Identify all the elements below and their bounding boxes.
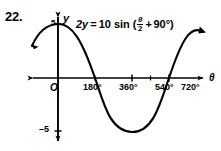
equation-plus: + [145, 18, 151, 30]
math-figure: 22. [0, 0, 221, 151]
fraction-denominator: 2 [137, 25, 143, 33]
y-tick-label-5: 5 [51, 19, 55, 27]
y-tick-label-minus-5: –5 [39, 125, 49, 134]
equation-equals: = [90, 18, 96, 30]
equation-label: 2y=10sin(θ2+90°) [76, 16, 174, 33]
origin-label: O [50, 83, 58, 93]
x-tick-label-720: 720° [181, 83, 200, 92]
equation-open-paren: ( [133, 18, 137, 30]
equation-lhs: 2y [76, 18, 88, 30]
x-tick-label-360: 360° [119, 83, 138, 92]
curve-arrow-right [198, 26, 208, 35]
y-axis [55, 17, 62, 141]
equation-amplitude: 10 [99, 18, 111, 30]
equation-close-paren: ) [170, 18, 174, 30]
x-axis-label: θ [209, 73, 215, 83]
x-tick-label-540: 540° [155, 83, 174, 92]
equation-fraction: θ2 [137, 16, 143, 33]
x-tick-label-180: 180° [83, 83, 102, 92]
y-axis-label: y [63, 13, 69, 24]
equation-function: sin [114, 18, 130, 30]
equation-phase: 90° [153, 18, 170, 30]
